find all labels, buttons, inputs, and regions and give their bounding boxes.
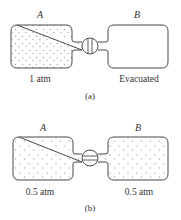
valve-closed-icon <box>82 38 98 54</box>
container-b-state: Evacuated <box>119 74 159 84</box>
container-a-pressure: 1 atm <box>29 74 51 84</box>
container-a-label: A <box>39 122 47 133</box>
gas-expansion-diagram: A B 1 atm Evacuated (a) A B 0.5 atm 0.5 … <box>0 0 181 220</box>
container-b <box>98 25 168 68</box>
container-b-label: B <box>134 9 140 20</box>
container-a <box>11 25 82 68</box>
neck-a-gas <box>72 42 82 50</box>
figure-a: A B 1 atm Evacuated (a) <box>11 9 168 101</box>
container-a <box>13 137 82 180</box>
caption-b: (b) <box>85 203 96 213</box>
figure-b: A B 0.5 atm 0.5 atm (b) <box>13 122 168 213</box>
valve-open-icon <box>82 150 98 166</box>
neck-a-gas <box>73 154 82 162</box>
container-a-label: A <box>36 9 44 20</box>
container-b-label: B <box>135 122 141 133</box>
container-a-pressure: 0.5 atm <box>26 187 55 197</box>
caption-a: (a) <box>85 91 95 101</box>
container-b-pressure: 0.5 atm <box>125 187 154 197</box>
